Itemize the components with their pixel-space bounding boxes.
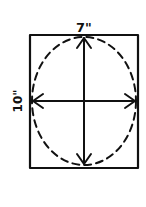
height-label: 10" [11, 90, 25, 113]
width-label: 7" [76, 20, 92, 35]
dimension-diagram: 7" 10" [0, 0, 146, 207]
